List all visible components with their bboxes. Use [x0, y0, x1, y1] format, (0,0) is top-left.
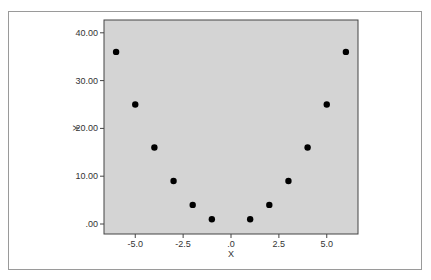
- x-axis-label: X: [228, 249, 234, 259]
- data-point: [190, 202, 196, 208]
- x-tick-label: 5.0: [320, 239, 333, 249]
- y-tick-label: 10.00: [75, 171, 98, 181]
- data-point: [266, 202, 272, 208]
- data-point: [113, 49, 119, 55]
- y-tick-label: 30.00: [75, 76, 98, 86]
- data-point: [209, 216, 215, 222]
- scatter-chart: .0010.0020.0030.0040.00 -5.0-2.5.02.55.0…: [0, 0, 431, 280]
- y-tick-label: 40.00: [75, 28, 98, 38]
- y-tick-label: .00: [85, 219, 98, 229]
- data-point: [151, 144, 157, 150]
- data-point: [285, 178, 291, 184]
- data-point: [304, 144, 310, 150]
- data-point: [324, 101, 330, 107]
- data-point: [132, 101, 138, 107]
- x-tick-label: .0: [227, 239, 235, 249]
- data-point: [170, 178, 176, 184]
- y-axis-label: Y: [71, 125, 81, 131]
- x-axis: -5.0-2.5.02.55.0: [127, 234, 333, 249]
- x-tick-label: -5.0: [127, 239, 143, 249]
- data-point: [343, 49, 349, 55]
- x-tick-label: 2.5: [273, 239, 286, 249]
- plot-area: [104, 20, 358, 234]
- data-point: [247, 216, 253, 222]
- x-tick-label: -2.5: [175, 239, 191, 249]
